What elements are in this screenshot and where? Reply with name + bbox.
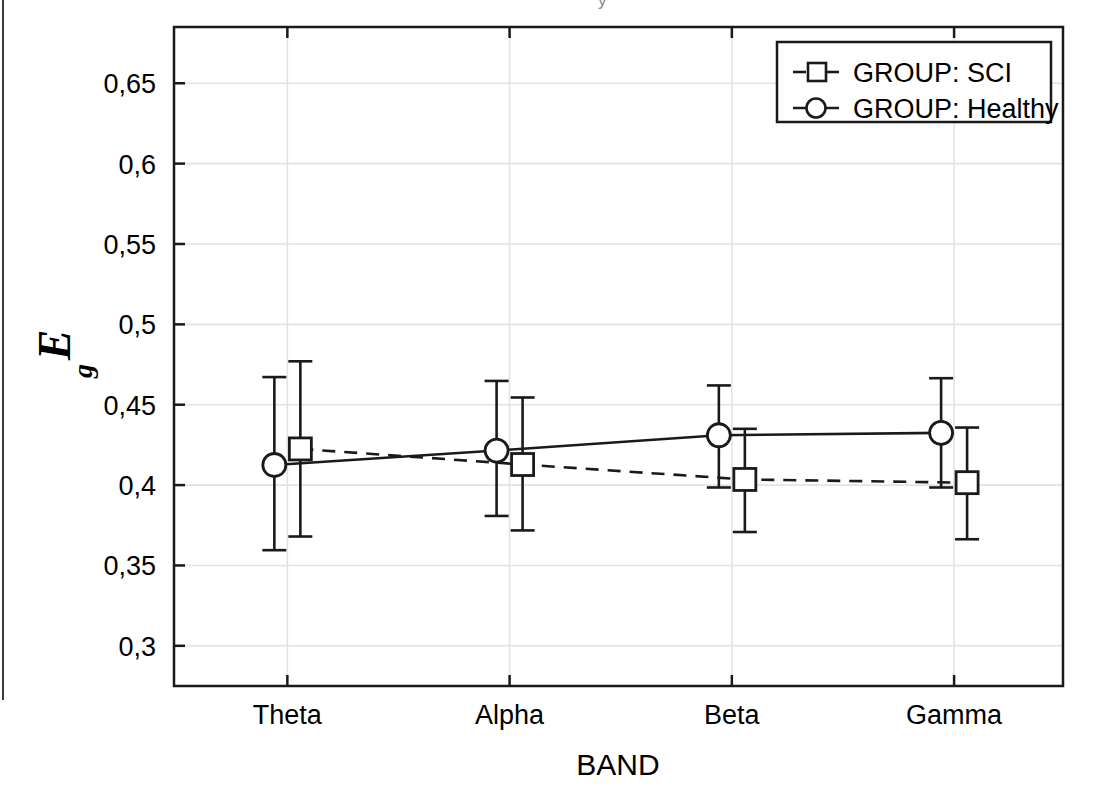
x-axis-tick-label: Beta (704, 700, 761, 730)
data-point-square (734, 468, 756, 490)
y-axis-title-main: E (29, 330, 80, 362)
data-point-circle (707, 424, 730, 447)
y-axis-tick-labels: 0,650,60,550,50,450,40,350,3 (103, 69, 156, 662)
y-axis-tick-label: 0,35 (103, 551, 156, 581)
data-point-square (956, 472, 978, 494)
clipped-title-glyph: y (598, 0, 607, 11)
x-axis-title: BAND (576, 748, 659, 781)
x-axis-tick-labels: ThetaAlphaBetaGamma (253, 700, 1003, 730)
data-point-square (289, 438, 311, 460)
x-axis-tick-label: Alpha (475, 700, 545, 730)
series-line (300, 449, 967, 483)
chart-figure: y 0,650,60,550,50,450,40,350,3 ThetaAlph… (0, 0, 1102, 803)
y-axis-tick-label: 0,6 (118, 150, 156, 180)
series-line (274, 433, 941, 465)
x-axis-tick-label: Theta (253, 700, 323, 730)
series-healthy (262, 377, 953, 550)
data-point-circle (930, 421, 953, 444)
data-point-circle (263, 453, 286, 476)
plot-frame (174, 27, 1063, 686)
series-sci (288, 361, 979, 539)
data-point-circle (485, 439, 508, 462)
y-axis-tick-label: 0,3 (118, 632, 156, 662)
y-axis-tick-label: 0,4 (118, 471, 156, 501)
y-axis-tick-label: 0,65 (103, 69, 156, 99)
y-axis-title: E g (29, 330, 98, 379)
y-axis-tick-label: 0,5 (118, 310, 156, 340)
y-axis-tick-label: 0,45 (103, 391, 156, 421)
legend-label: GROUP: SCI (853, 58, 1012, 88)
data-point-square (512, 454, 534, 476)
gridlines (175, 28, 1062, 685)
y-axis-tick-label: 0,55 (103, 230, 156, 260)
legend-label: GROUP: Healthy (853, 94, 1059, 124)
x-axis-ticks (287, 27, 954, 686)
x-axis-tick-label: Gamma (906, 700, 1003, 730)
data-series-layer (262, 361, 979, 550)
legend[interactable]: GROUP: SCIGROUP: Healthy (777, 42, 1059, 124)
plot-canvas: 0,650,60,550,50,450,40,350,3 ThetaAlphaB… (0, 0, 1102, 803)
page-left-border (2, 0, 4, 700)
legend-marker-square (808, 63, 826, 81)
y-axis-title-subscript: g (67, 364, 98, 379)
legend-marker-circle (807, 99, 826, 118)
y-axis-ticks (174, 83, 185, 646)
